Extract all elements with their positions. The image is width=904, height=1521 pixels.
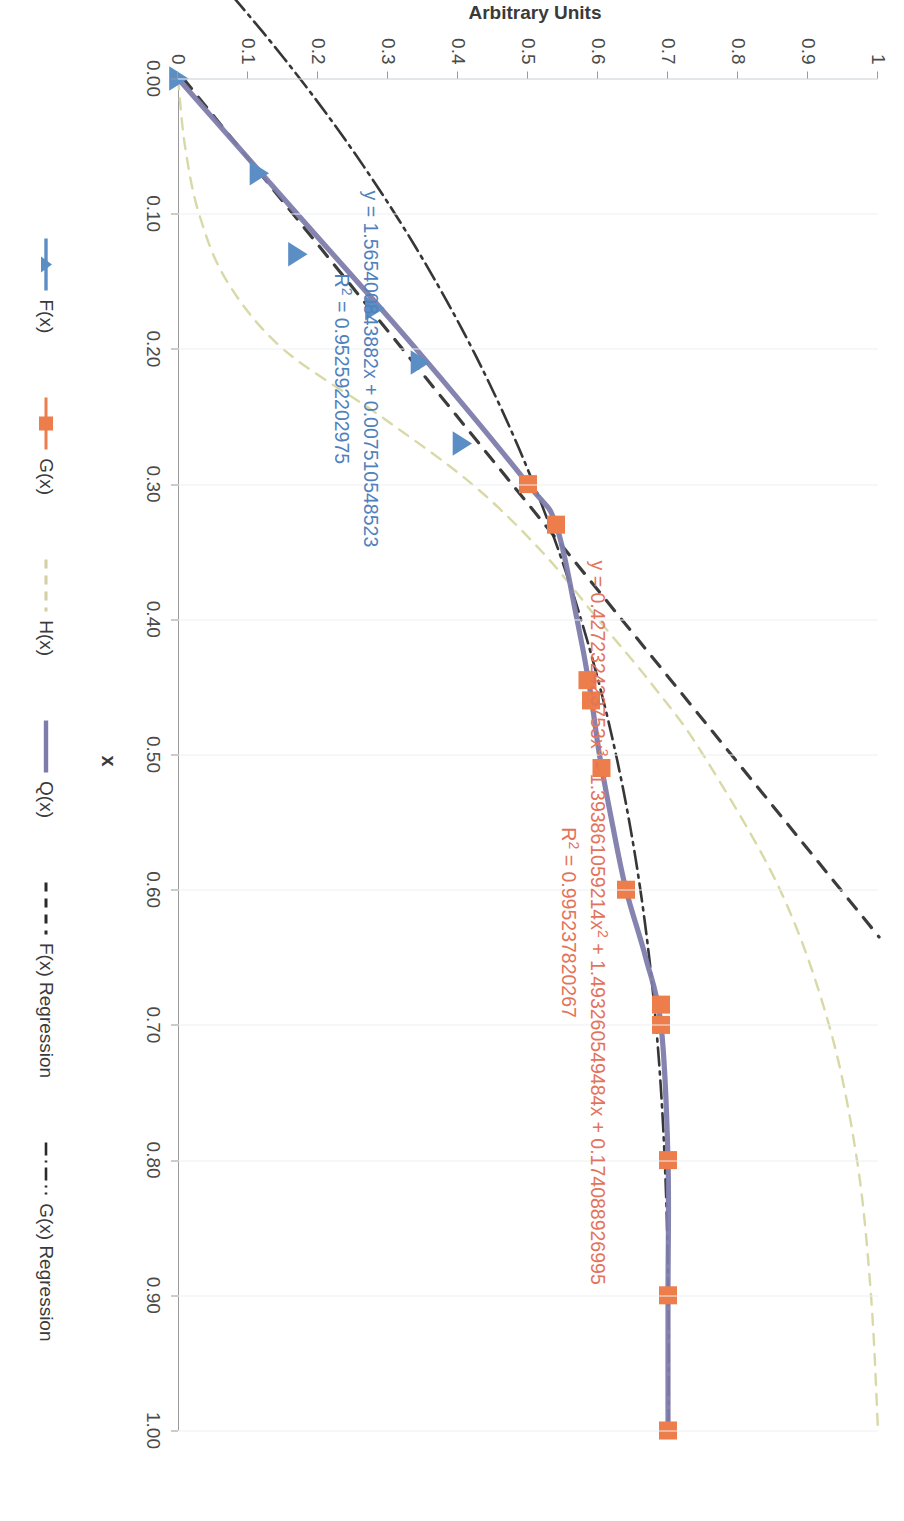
x-axis-tick-label: 0.40 — [142, 600, 164, 637]
linear-r2-line: R2 = 0.952592202975 — [327, 190, 356, 547]
x-axis-tick — [171, 1430, 178, 1431]
y-axis-tick — [317, 71, 318, 78]
x-gridline — [178, 348, 878, 349]
x-axis-tick-label: 0.20 — [142, 330, 164, 367]
x-axis-tick-label: 0.80 — [142, 1141, 164, 1178]
dashed-line-icon — [38, 559, 54, 611]
y-axis-tick — [527, 71, 528, 78]
y-axis-tick — [667, 71, 668, 78]
x-axis-tick-label: 1.00 — [142, 1412, 164, 1449]
y-axis-tick-label: 1 — [867, 12, 889, 64]
x-axis-tick — [171, 754, 178, 755]
x-axis-tick-label: 0.00 — [142, 60, 164, 97]
legend-item-gx-regression[interactable]: G(x) Regression — [35, 1142, 57, 1341]
cubic-equation-line: y = 0.427232423753x3 - 1.393861059214x2 … — [583, 560, 612, 1284]
x-gridline — [178, 1430, 878, 1431]
legend-item-gx[interactable]: G(x) — [35, 397, 57, 495]
line-marker-square-icon — [38, 397, 54, 449]
y-axis-tick-label: 0 — [167, 12, 189, 64]
plot-area — [178, 78, 878, 1430]
x-axis-tick-label: 0.30 — [142, 465, 164, 502]
y-axis-tick — [177, 71, 178, 78]
x-axis-title: x — [97, 0, 120, 1521]
cubic-eq-exp1: 3 — [595, 748, 611, 756]
cubic-eq-part2: - 1.393861059214x — [587, 756, 609, 929]
x-axis-tick — [171, 484, 178, 485]
data-point-fx — [288, 242, 307, 266]
y-axis-title: Arbitrary Units — [255, 1, 815, 23]
x-axis-tick — [171, 348, 178, 349]
legend-item-label: G(x) — [35, 458, 57, 495]
x-axis-tick — [171, 619, 178, 620]
x-axis-tick — [171, 889, 178, 890]
solid-line-icon — [38, 720, 54, 772]
x-axis-tick — [171, 1160, 178, 1161]
legend-item-qx[interactable]: Q(x) — [35, 720, 57, 818]
linear-r2-exp: 2 — [339, 287, 355, 295]
cubic-r2-value: = 0.995237820267 — [557, 849, 579, 1018]
x-gridline — [178, 619, 878, 620]
y-axis-tick — [247, 71, 248, 78]
linear-r2-label: R — [331, 273, 353, 287]
x-axis-tick — [171, 213, 178, 214]
y-axis-tick — [597, 71, 598, 78]
x-gridline — [178, 1295, 878, 1296]
legend-item-label: F(x) Regression — [35, 943, 57, 1078]
cubic-r2-label: R — [557, 827, 579, 841]
linear-r2-value: = 0.952592202975 — [331, 295, 353, 464]
x-gridline — [178, 889, 878, 890]
legend-item-label: G(x) Regression — [35, 1203, 57, 1341]
linear-equation-line: y = 1.565400843882x + 0.007510548523 — [356, 190, 384, 547]
cubic-r2-exp: 2 — [566, 841, 582, 849]
x-axis-tick-label: 0.10 — [142, 195, 164, 232]
y-axis-tick — [807, 71, 808, 78]
data-point-fx — [453, 431, 472, 455]
data-point-gx — [652, 995, 670, 1013]
x-gridline — [178, 1024, 878, 1025]
y-axis-tick — [457, 71, 458, 78]
data-point-gx — [547, 515, 565, 533]
x-axis-tick-label: 0.50 — [142, 736, 164, 773]
legend-item-label: Q(x) — [35, 781, 57, 818]
x-axis-tick-label: 0.70 — [142, 1006, 164, 1043]
legend-item-label: F(x) — [35, 299, 57, 333]
y-axis-tick — [387, 71, 388, 78]
cubic-r2-line: R2 = 0.995237820267 — [554, 560, 583, 1284]
x-axis-tick-label: 0.60 — [142, 871, 164, 908]
legend-item-hx[interactable]: H(x) — [35, 559, 57, 656]
x-gridline — [178, 484, 878, 485]
dash-dot-line-icon — [38, 1142, 54, 1194]
line-marker-triangle-icon — [38, 238, 54, 290]
x-axis-tick-label: 0.90 — [142, 1276, 164, 1313]
cubic-eq-part3: + 1.493260549484x + 0.174088926995 — [587, 937, 609, 1284]
linear-regression-annotation: y = 1.565400843882x + 0.007510548523 R2 … — [327, 190, 384, 547]
y-axis-tick — [737, 71, 738, 78]
cubic-eq-part1: y = 0.427232423753x — [587, 560, 609, 748]
x-gridline — [178, 213, 878, 214]
cubic-regression-annotation: y = 0.427232423753x3 - 1.393861059214x2 … — [554, 560, 612, 1284]
chart-legend: F(x) G(x) H(x) Q(x) F(x) Regression G(x)… — [24, 78, 68, 1501]
chart-figure: 0.000.100.200.300.400.500.600.700.800.90… — [0, 0, 904, 1521]
legend-item-fx-regression[interactable]: F(x) Regression — [35, 882, 57, 1078]
x-gridline — [178, 754, 878, 755]
x-gridline — [178, 78, 878, 79]
x-axis-tick — [171, 1024, 178, 1025]
x-gridline — [178, 1160, 878, 1161]
dashed-line-icon — [38, 882, 54, 934]
y-axis-tick — [877, 71, 878, 78]
cubic-eq-exp2: 2 — [595, 929, 611, 937]
legend-item-fx[interactable]: F(x) — [35, 238, 57, 333]
legend-item-label: H(x) — [35, 620, 57, 656]
x-axis-tick — [171, 1295, 178, 1296]
rotated-figure-wrapper: 0.000.100.200.300.400.500.600.700.800.90… — [0, 0, 904, 1521]
